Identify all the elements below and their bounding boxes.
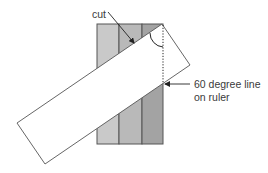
diagram-canvas: cut 60 degree line on ruler — [0, 0, 268, 173]
ruler-label-line-2: on ruler — [194, 91, 230, 103]
ruler-label-line-1: 60 degree line — [194, 78, 261, 90]
cut-label: cut — [92, 8, 106, 20]
